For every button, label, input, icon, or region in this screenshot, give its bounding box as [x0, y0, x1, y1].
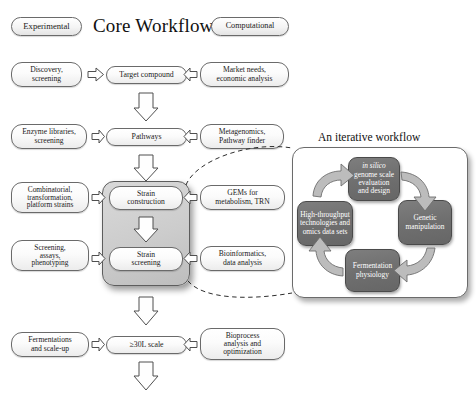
cycle-arrow-bottom-to-left	[309, 237, 343, 276]
arrow-left-row4	[92, 252, 105, 265]
workflow-diagram: Experimental Core Workflow Computational…	[0, 0, 476, 398]
dashed-connector-bottom	[188, 281, 292, 297]
arrow-down-4	[134, 297, 158, 325]
arrow-left-row3	[92, 191, 105, 204]
arrow-down-3-inner	[134, 217, 158, 242]
connector-layer: .ha{fill:#fefefe;stroke:#4f4f4f;stroke-w…	[0, 0, 476, 398]
cycle-arrow-left-to-top	[313, 164, 354, 197]
arrow-right-row3	[184, 191, 197, 204]
arrow-down-1	[134, 93, 158, 121]
dashed-connector-top	[186, 147, 292, 185]
arrow-left-row2	[92, 130, 105, 143]
arrow-down-2	[134, 155, 158, 181]
cycle-arrow-right-to-bottom	[394, 248, 435, 282]
cycle-arrow-top-to-right	[401, 172, 436, 211]
arrow-right-row4	[184, 252, 197, 265]
arrow-down-5	[134, 362, 158, 390]
arrow-right-row2	[184, 130, 197, 143]
arrow-left-row5	[92, 338, 105, 351]
arrow-right-row5	[184, 338, 197, 351]
arrow-right-row1	[184, 68, 197, 81]
arrow-left-row1	[88, 68, 104, 81]
